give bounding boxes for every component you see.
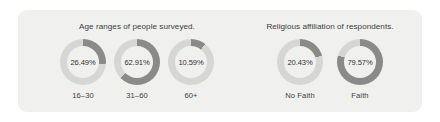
donut-value-16-30: 26.49%	[70, 58, 95, 67]
donut-value-no-faith: 20.43%	[287, 58, 312, 67]
donut-label-faith: Faith	[351, 91, 368, 100]
donut-item-16-30[interactable]: 26.49% 16–30	[60, 39, 106, 100]
donut-chart-60-plus[interactable]: 10.59%	[168, 39, 214, 85]
donut-value-faith: 79.57%	[347, 58, 372, 67]
panel-age-ranges: Age ranges of people surveyed. 26.49% 16…	[32, 10, 242, 112]
panel-age-title: Age ranges of people surveyed.	[32, 22, 242, 31]
age-donut-row: 26.49% 16–30 62.91% 31–60 10.59% 60+	[32, 39, 242, 100]
donut-value-31-60: 62.91%	[124, 58, 149, 67]
donut-chart-no-faith[interactable]: 20.43%	[277, 39, 323, 85]
donut-item-faith[interactable]: 79.57% Faith	[337, 39, 383, 100]
panel-religion-title: Religious affiliation of respondents.	[240, 22, 420, 31]
panel-religious-affiliation: Religious affiliation of respondents. 20…	[240, 10, 420, 112]
donut-label-no-faith: No Faith	[285, 91, 315, 100]
religion-donut-row: 20.43% No Faith 79.57% Faith	[240, 39, 420, 100]
donut-chart-faith[interactable]: 79.57%	[337, 39, 383, 85]
donut-label-60-plus: 60+	[184, 91, 197, 100]
donut-item-no-faith[interactable]: 20.43% No Faith	[277, 39, 323, 100]
donut-label-16-30: 16–30	[72, 91, 94, 100]
donut-chart-31-60[interactable]: 62.91%	[114, 39, 160, 85]
donut-item-31-60[interactable]: 62.91% 31–60	[114, 39, 160, 100]
donut-value-60-plus: 10.59%	[178, 58, 203, 67]
donut-label-31-60: 31–60	[126, 91, 148, 100]
donut-item-60-plus[interactable]: 10.59% 60+	[168, 39, 214, 100]
donut-chart-16-30[interactable]: 26.49%	[60, 39, 106, 85]
chart-card: Age ranges of people surveyed. 26.49% 16…	[18, 10, 422, 112]
